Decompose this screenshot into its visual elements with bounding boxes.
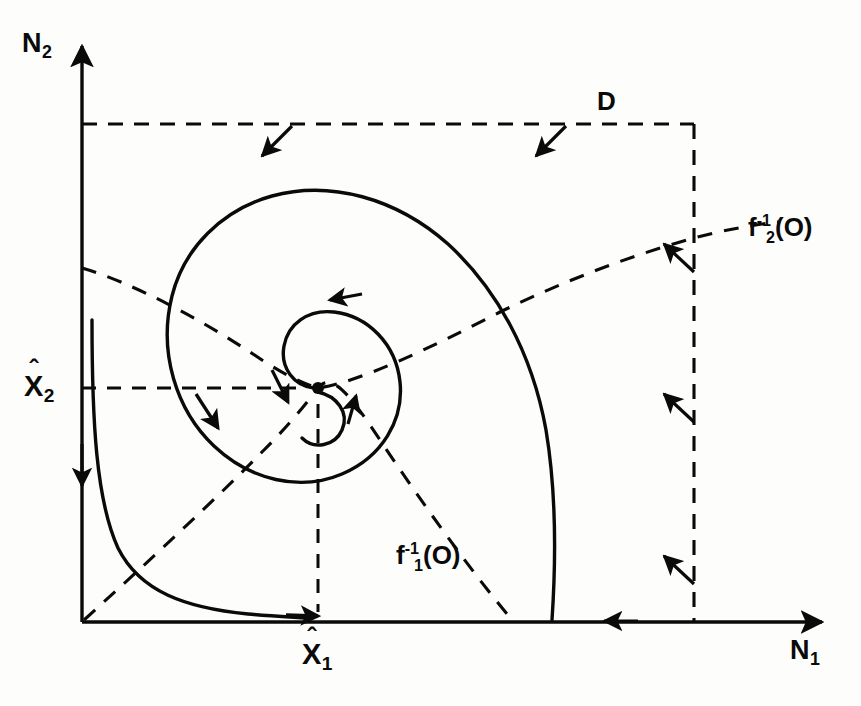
phase-plane-canvas: [0, 0, 861, 706]
x2-hat-stack: ˆX: [24, 372, 43, 401]
nullcline-f2-label-base: f: [748, 212, 757, 242]
trajectory-descend-arrow: [196, 394, 218, 428]
corner-trajectory: [92, 320, 306, 618]
nullcline-f2-label-subscript: 2: [766, 228, 775, 246]
nullcline-f1-label-subscript: 1: [414, 556, 423, 574]
nullcline-f1-label-argument: (O): [423, 540, 461, 570]
phase-plane-figure: N2 N1 ˆX2 ˆX1 D f-12(O) f-11(O): [0, 0, 861, 706]
axis-lines: [82, 46, 822, 622]
nullcline-f1-label-base: f: [396, 540, 405, 570]
nullcline-f2-label-argument: (O): [775, 212, 813, 242]
equilibrium-guides: [82, 388, 318, 612]
nullcline-f2-curve: [82, 222, 778, 388]
x2-hat-tick-label: ˆX2: [24, 372, 54, 405]
invariant-region-boundary: [82, 124, 694, 622]
x-axis-label: N1: [790, 637, 820, 669]
flow-arrow-right-2: [664, 394, 694, 422]
nullcline-f2-label: f-12(O): [748, 212, 813, 245]
x2-hat-mark: ˆ: [29, 356, 38, 383]
nullcline-f2-label-superscript: -1: [757, 211, 771, 229]
equilibrium-point: [312, 382, 324, 394]
spiral-trajectory: [167, 190, 554, 620]
spiral-arrow-top: [330, 294, 362, 300]
flow-arrow-right-1: [664, 244, 694, 272]
x1-hat-mark: ˆ: [307, 624, 316, 651]
flow-arrow-top-2: [536, 126, 566, 156]
region-d-label: D: [597, 88, 616, 114]
corner-trajectory-arrow: [286, 615, 318, 616]
y-axis-label-subscript: 2: [42, 42, 52, 62]
spiral-inner-loop: [302, 392, 344, 445]
flow-arrow-right-3: [664, 556, 694, 584]
x1-hat-tick-label: ˆX1: [302, 640, 332, 673]
y-axis-label: N2: [22, 30, 52, 62]
x-axis-label-base: N: [790, 635, 810, 665]
nullcline-f1-label-superscript: -1: [405, 539, 419, 557]
flow-arrow-top-1: [262, 126, 292, 156]
nullcline-f1-label: f-11(O): [396, 540, 461, 573]
spiral-arrow-inner: [348, 396, 356, 424]
x-axis-label-subscript: 1: [810, 649, 820, 669]
y-axis-label-base: N: [22, 28, 42, 58]
x1-hat-subscript: 1: [321, 653, 332, 674]
x2-hat-subscript: 2: [43, 385, 54, 406]
x1-hat-stack: ˆX: [302, 640, 321, 669]
